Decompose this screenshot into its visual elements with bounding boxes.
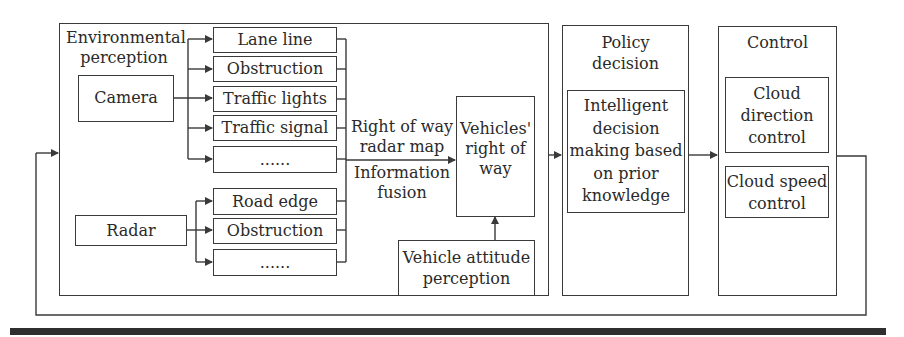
title-line: decision [563,53,688,74]
environmental-perception-title: Environmental perception [66,28,182,68]
label-line: Vehicles' [457,119,534,139]
policy-decision-title: Policy decision [563,32,688,74]
title-line: Policy [563,32,688,53]
output-label: Traffic lights [214,87,336,111]
right-of-way-radar-map-label: Right of way radar map [350,117,454,157]
traffic-signal-box: Traffic signal [213,115,337,141]
camera-label: Camera [79,76,173,121]
label-line: Cloud [726,83,828,105]
label-line: right of [457,139,534,159]
label-line: perception [399,268,534,289]
output-label: Traffic signal [214,116,336,140]
cloud-speed-control-box: Cloud speed control [725,166,829,218]
intelligent-decision-box: Intelligent decision making based on pri… [567,90,685,213]
title-line: perception [66,48,182,68]
traffic-lights-box: Traffic lights [213,86,337,112]
output-label: Obstruction [214,57,336,81]
road-edge-box: Road edge [213,188,337,215]
label-line: fusion [350,183,454,203]
label-line: Vehicle attitude [399,247,534,268]
vehicles-right-of-way-text: Vehicles' right of way [457,119,534,179]
output-label: Obstruction [214,219,336,243]
radar-obstruction-box: Obstruction [213,218,337,244]
output-label: Lane line [214,28,336,52]
label-line: decision [568,118,684,141]
cloud-speed-text: Cloud speed control [726,171,828,215]
label-line: knowledge [568,185,684,208]
label-line: Information [350,163,454,183]
label-line: control [726,127,828,149]
radar-more-box: ...... [213,249,337,276]
label-line: Right of way [350,117,454,137]
intelligent-decision-text: Intelligent decision making based on pri… [568,95,684,208]
camera-obstruction-box: Obstruction [213,56,337,82]
output-label: ...... [214,250,336,275]
label-line: radar map [350,137,454,157]
camera-box: Camera [78,75,174,122]
lane-line-box: Lane line [213,27,337,53]
label-line: making based [568,140,684,163]
output-label: Road edge [214,189,336,214]
cloud-direction-text: Cloud direction control [726,83,828,149]
control-panel: Control [718,26,837,296]
label-line: on prior [568,163,684,186]
label-line: control [726,193,828,215]
vehicles-right-of-way-box: Vehicles' right of way [456,96,535,217]
label-line: Intelligent [568,95,684,118]
radar-box: Radar [75,215,187,246]
radar-label: Radar [76,216,186,245]
label-line: way [457,159,534,179]
vehicle-attitude-perception-box: Vehicle attitude perception [398,240,535,296]
bottom-rule [10,328,886,335]
output-label: ...... [214,147,336,172]
cloud-direction-control-box: Cloud direction control [725,77,829,153]
label-line: direction [726,105,828,127]
information-fusion-label: Information fusion [350,163,454,203]
title-line: Environmental [66,28,182,48]
label-line: Cloud speed [726,171,828,193]
control-title: Control [719,33,836,53]
vehicle-attitude-text: Vehicle attitude perception [399,247,534,289]
camera-more-box: ...... [213,146,337,173]
